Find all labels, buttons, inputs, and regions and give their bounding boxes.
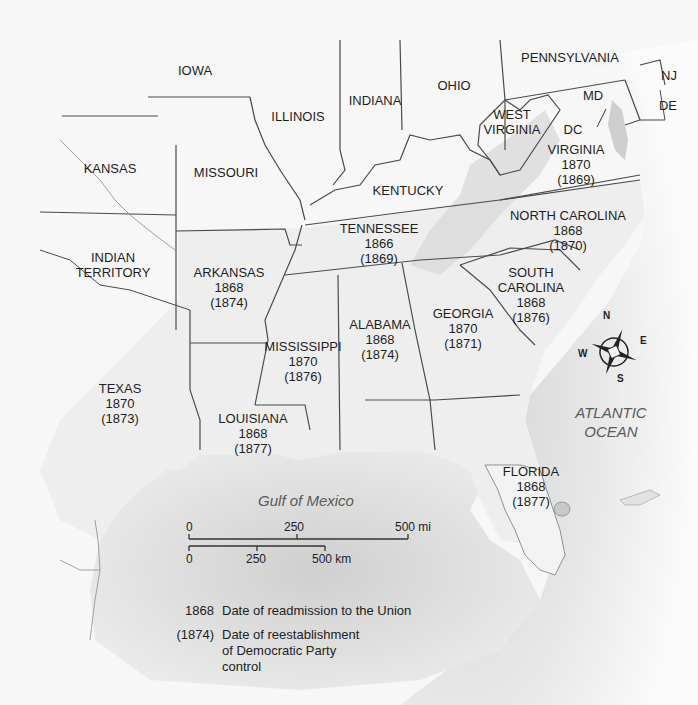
state-label-iowa: IOWA — [178, 63, 212, 78]
gulf-of-mexico-label: Gulf of Mexico — [258, 491, 354, 510]
state-label-md: MD — [583, 88, 603, 103]
state-label-arkansas: ARKANSAS 1868 (1874) — [194, 265, 265, 310]
scale-mi-500: 500 mi — [395, 520, 431, 534]
scale-mi-0: 0 — [186, 520, 193, 534]
legend-row-democratic-control: (1874) Date of reestablishment of Democr… — [160, 627, 422, 675]
virginia-name: VIRGINIA — [547, 142, 604, 157]
indian-territory-text: INDIAN TERRITORY — [76, 250, 151, 280]
state-label-illinois: ILLINOIS — [271, 109, 324, 124]
state-label-ohio: OHIO — [437, 78, 470, 93]
florida-name: FLORIDA — [503, 464, 559, 479]
state-label-mississippi: MISSISSIPPI 1870 (1876) — [264, 339, 341, 384]
state-label-alabama: ALABAMA 1868 (1874) — [349, 317, 410, 362]
state-label-de: DE — [659, 98, 677, 113]
louisiana-name: LOUISIANA — [218, 411, 287, 426]
south-carolina-readmitted: 1868 — [491, 295, 571, 310]
virginia-readmitted: 1870 — [547, 157, 604, 172]
arkansas-readmitted: 1868 — [194, 280, 265, 295]
north-carolina-readmitted: 1868 — [510, 223, 626, 238]
atlantic-line1: ATLANTIC — [575, 403, 646, 422]
state-label-virginia: VIRGINIA 1870 (1869) — [547, 142, 604, 187]
georgia-name: GEORGIA — [433, 306, 494, 321]
georgia-democratic-control: (1871) — [433, 336, 494, 351]
west-virginia-text: WEST VIRGINIA — [483, 107, 540, 137]
tennessee-name: TENNESSEE — [340, 221, 419, 236]
legend-desc-readmission: Date of readmission to the Union — [222, 603, 422, 619]
compass-s: S — [617, 373, 624, 384]
texas-name: TEXAS — [99, 381, 142, 396]
state-label-missouri: MISSOURI — [194, 165, 258, 180]
state-label-nj: NJ — [661, 68, 677, 83]
map-legend: 1868 Date of readmission to the Union (1… — [160, 603, 422, 683]
state-label-pennsylvania: PENNSYLVANIA — [521, 50, 619, 65]
state-label-dc: DC — [564, 122, 583, 137]
texas-readmitted: 1870 — [99, 396, 142, 411]
scale-km-500: 500 km — [312, 552, 351, 566]
state-label-tennessee: TENNESSEE 1866 (1869) — [340, 221, 419, 266]
tennessee-democratic-control: (1869) — [340, 251, 419, 266]
state-label-indian-territory: INDIAN TERRITORY — [68, 250, 158, 280]
scale-km-250: 250 — [246, 552, 266, 566]
alabama-democratic-control: (1874) — [349, 347, 410, 362]
louisiana-democratic-control: (1877) — [218, 441, 287, 456]
south-carolina-name: SOUTH CAROLINA — [491, 265, 571, 295]
compass-e: E — [640, 335, 647, 346]
compass-w: W — [578, 348, 587, 359]
state-label-south-carolina: SOUTH CAROLINA 1868 (1876) — [491, 265, 571, 325]
state-label-louisiana: LOUISIANA 1868 (1877) — [218, 411, 287, 456]
arkansas-democratic-control: (1874) — [194, 295, 265, 310]
atlantic-ocean-label: ATLANTIC OCEAN — [575, 403, 646, 441]
legend-row-readmission: 1868 Date of readmission to the Union — [160, 603, 422, 619]
florida-democratic-control: (1877) — [503, 494, 559, 509]
state-label-kansas: KANSAS — [84, 161, 137, 176]
atlantic-line2: OCEAN — [575, 422, 646, 441]
louisiana-readmitted: 1868 — [218, 426, 287, 441]
alabama-readmitted: 1868 — [349, 332, 410, 347]
south-carolina-democratic-control: (1876) — [491, 310, 571, 325]
georgia-readmitted: 1870 — [433, 321, 494, 336]
state-label-kentucky: KENTUCKY — [373, 183, 444, 198]
state-label-north-carolina: NORTH CAROLINA 1868 (1870) — [510, 208, 626, 253]
state-label-florida: FLORIDA 1868 (1877) — [503, 464, 559, 509]
mississippi-democratic-control: (1876) — [264, 369, 341, 384]
legend-desc-democratic-control: Date of reestablishment of Democratic Pa… — [222, 627, 372, 675]
state-label-west-virginia: WEST VIRGINIA — [477, 107, 547, 137]
compass-n: N — [603, 310, 610, 321]
virginia-democratic-control: (1869) — [547, 172, 604, 187]
scale-km-0: 0 — [186, 552, 193, 566]
north-carolina-democratic-control: (1870) — [510, 238, 626, 253]
state-label-indiana: INDIANA — [349, 93, 402, 108]
north-carolina-name: NORTH CAROLINA — [510, 208, 626, 223]
arkansas-name: ARKANSAS — [194, 265, 265, 280]
mississippi-name: MISSISSIPPI — [264, 339, 341, 354]
scale-mi-250: 250 — [284, 520, 304, 534]
state-label-texas: TEXAS 1870 (1873) — [99, 381, 142, 426]
legend-key-readmission: 1868 — [160, 603, 222, 619]
legend-key-democratic-control: (1874) — [160, 627, 222, 675]
mississippi-readmitted: 1870 — [264, 354, 341, 369]
state-label-georgia: GEORGIA 1870 (1871) — [433, 306, 494, 351]
tennessee-readmitted: 1866 — [340, 236, 419, 251]
florida-readmitted: 1868 — [503, 479, 559, 494]
texas-democratic-control: (1873) — [99, 411, 142, 426]
alabama-name: ALABAMA — [349, 317, 410, 332]
